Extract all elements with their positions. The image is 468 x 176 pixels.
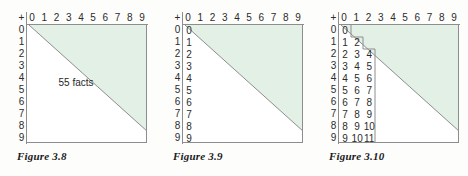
row-header: 3 [329,60,338,72]
table-row: 6 7 8 [339,96,375,108]
table-row: 5 6 7 [339,85,375,97]
sum-cell: 1 [339,37,351,48]
column-header: 7 [267,12,279,24]
sum-cell: 6 [339,97,351,108]
column-header: 8 [124,12,136,24]
sum-cell: 5 [183,85,195,96]
sum-cell: 9 [183,133,195,143]
table-row: 0 [183,25,195,37]
sum-cell: 7 [183,109,195,120]
sum-cell: 7 [339,109,351,120]
table-row: 0 [339,25,375,37]
sum-cell: 9 [339,133,351,143]
column-header: 5 [399,12,411,24]
sum-cell: 8 [183,121,195,132]
sum-cell: 10 [363,121,375,132]
row-header: 4 [329,72,338,84]
sum-cell: 0 [339,25,351,36]
addition-table-3-10: + 0 1 2 3 4 5 6 7 8 9 0 1 2 3 4 5 6 7 8 … [329,12,460,144]
column-header: 3 [375,12,387,24]
row-header: 0 [329,24,338,36]
row-header: 5 [173,84,182,96]
sum-cell: 4 [183,73,195,84]
row-header: 6 [173,96,182,108]
table-row: 7 [183,108,195,120]
column-header: 0 [338,12,350,24]
column-header: 0 [182,12,194,24]
sum-cell: 2 [339,49,351,60]
column-header: 7 [423,12,435,24]
table-row: 4 [183,73,195,85]
row-header: 2 [17,48,26,60]
column-header-row: 0 1 2 3 4 5 6 7 8 9 [182,12,304,24]
sum-cell: 11 [363,133,375,143]
figure-caption: Figure 3.10 [329,150,384,162]
grid-area: 0 1 2 2 3 4 3 4 5 4 5 [338,24,459,143]
sum-cell: 4 [363,49,375,60]
column-header: 8 [436,12,448,24]
column-header-row: 0 1 2 3 4 5 6 7 8 9 [338,12,460,24]
row-header: 5 [329,84,338,96]
row-header: 3 [173,60,182,72]
sum-cell: 6 [351,85,363,96]
row-header: 6 [329,96,338,108]
sum-cell: 5 [363,61,375,72]
column-header: 3 [63,12,75,24]
corner-plus-label: + [329,12,338,24]
addition-table-3-9: + 0 1 2 3 4 5 6 7 8 9 0 1 2 3 4 5 6 7 8 … [173,12,304,144]
figure-3-8: + 0 1 2 3 4 5 6 7 8 9 0 1 2 3 4 5 6 7 8 … [0,0,156,176]
addition-table-3-8: + 0 1 2 3 4 5 6 7 8 9 0 1 2 3 4 5 6 7 8 … [17,12,148,144]
grid-area: 55 facts [26,24,147,143]
column-header: 6 [255,12,267,24]
sum-cell: 7 [363,85,375,96]
row-header: 7 [17,108,26,120]
column-header: 0 [26,12,38,24]
row-header: 0 [173,24,182,36]
figure-3-10: + 0 1 2 3 4 5 6 7 8 9 0 1 2 3 4 5 6 7 8 … [312,0,468,176]
table-row: 5 [183,85,195,97]
column-header: 4 [387,12,399,24]
sum-cell: 6 [183,97,195,108]
column-header: 6 [99,12,111,24]
corner-plus-label: + [17,12,26,24]
table-row: 9 [183,132,195,143]
inner-sum-grid: 0 1 2 3 4 5 6 7 8 9 [183,25,195,143]
row-header: 9 [173,132,182,144]
row-header: 5 [17,84,26,96]
table-row: 9 10 11 [339,132,375,143]
column-header: 9 [292,12,304,24]
table-row: 3 [183,61,195,73]
row-header: 8 [173,120,182,132]
column-header: 3 [219,12,231,24]
sum-cell: 4 [339,73,351,84]
sum-cell: 1 [183,37,195,48]
column-header: 2 [206,12,218,24]
table-row: 1 [183,37,195,49]
column-header: 7 [111,12,123,24]
row-header: 2 [173,48,182,60]
sum-cell: 4 [351,61,363,72]
column-header: 9 [136,12,148,24]
column-header: 8 [280,12,292,24]
column-header: 2 [50,12,62,24]
row-header: 3 [17,60,26,72]
row-header-column: 0 1 2 3 4 5 6 7 8 9 [329,24,338,144]
table-row: 8 9 10 [339,120,375,132]
sum-cell: 5 [351,73,363,84]
column-header: 5 [243,12,255,24]
column-header: 1 [194,12,206,24]
row-header: 8 [17,120,26,132]
sum-cell: 8 [339,121,351,132]
column-header-row: 0 1 2 3 4 5 6 7 8 9 [26,12,148,24]
sum-cell: 2 [351,37,363,48]
row-header: 2 [329,48,338,60]
table-row: 3 4 5 [339,61,375,73]
row-header-column: 0 1 2 3 4 5 6 7 8 9 [17,24,26,144]
column-header: 5 [87,12,99,24]
sum-cell: 3 [351,49,363,60]
row-header: 9 [17,132,26,144]
column-header: 6 [411,12,423,24]
figure-3-9: + 0 1 2 3 4 5 6 7 8 9 0 1 2 3 4 5 6 7 8 … [156,0,312,176]
figure-caption: Figure 3.8 [17,150,67,162]
row-header: 6 [17,96,26,108]
